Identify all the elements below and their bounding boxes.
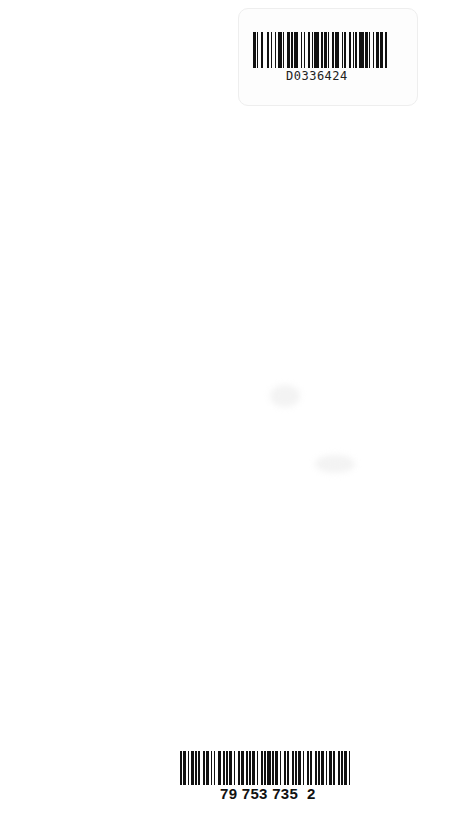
- barcode-gap: [350, 751, 353, 785]
- top-barcode-number: D0336424: [286, 69, 348, 83]
- bottom-barcode-number: 79 753 735 2: [220, 785, 316, 802]
- scan-smudge: [270, 385, 300, 407]
- barcode-gap: [387, 32, 388, 68]
- bottom-barcode: [180, 751, 354, 785]
- top-barcode: [253, 32, 389, 68]
- scan-smudge: [315, 455, 355, 473]
